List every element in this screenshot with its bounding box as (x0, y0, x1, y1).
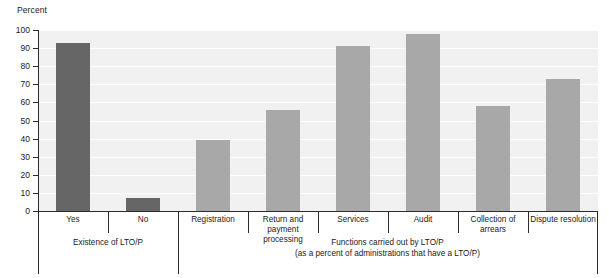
bar (126, 198, 160, 211)
y-axis-tick-label: 0 (6, 207, 30, 216)
gridline (38, 193, 598, 194)
gridline (38, 139, 598, 140)
y-axis-tick-label: 90 (6, 44, 30, 53)
category-label-line1: Return and payment (263, 215, 304, 234)
group-separator-right (597, 212, 598, 274)
y-axis-tick (33, 66, 38, 67)
y-axis-tick-label: 30 (6, 153, 30, 162)
y-axis-tick-label: 50 (6, 117, 30, 126)
y-axis-tick (33, 175, 38, 176)
bar (56, 43, 90, 211)
category-separator (108, 212, 109, 233)
category-separator (528, 212, 529, 233)
y-axis-tick-label: 100 (6, 26, 30, 35)
group-caption-functions-line2: (as a percent of administrations that ha… (178, 249, 597, 260)
group-caption-functions: Functions carried out by LTO/P (as a per… (178, 238, 597, 259)
y-axis-tick (33, 48, 38, 49)
category-separator (458, 212, 459, 233)
category-separator (318, 212, 319, 233)
y-axis-tick-label: 70 (6, 80, 30, 89)
y-axis-line (38, 30, 39, 212)
y-axis-tick-label: 40 (6, 135, 30, 144)
gridline (38, 66, 598, 67)
y-axis-tick (33, 139, 38, 140)
y-axis-tick-label: 10 (6, 189, 30, 198)
y-axis-tick (33, 102, 38, 103)
gridline (38, 157, 598, 158)
bar (546, 79, 580, 211)
bar (336, 46, 370, 211)
category-separator (248, 212, 249, 233)
gridline (38, 102, 598, 103)
plot-area (38, 30, 598, 211)
bar (406, 34, 440, 211)
y-axis-title: Percent (17, 5, 47, 15)
category-separator (388, 212, 389, 233)
y-axis-tick-label: 60 (6, 98, 30, 107)
y-axis-tick (33, 30, 38, 31)
gridline (38, 84, 598, 85)
bar-chart: Percent 1009080706050403020100 Yes No Re… (0, 0, 609, 278)
bar (266, 110, 300, 211)
y-axis-tick (33, 121, 38, 122)
group-caption-existence: Existence of LTO/P (38, 238, 178, 249)
group-caption-functions-line1: Functions carried out by LTO/P (178, 238, 597, 249)
bar (196, 140, 230, 211)
gridline (38, 48, 598, 49)
y-axis-tick (33, 193, 38, 194)
y-axis-tick-label: 20 (6, 171, 30, 180)
gridline (38, 121, 598, 122)
bar (476, 106, 510, 211)
gridline (38, 175, 598, 176)
y-axis-tick (33, 84, 38, 85)
y-axis-tick-label: 80 (6, 62, 30, 71)
y-axis-tick (33, 157, 38, 158)
gridline (38, 30, 598, 31)
